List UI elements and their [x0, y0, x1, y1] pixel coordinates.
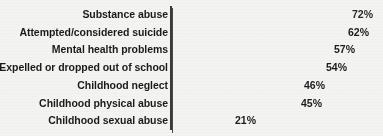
- plot-area: Substance abuse 72% Attempted/considered…: [0, 6, 383, 130]
- bar-row: Attempted/considered suicide 62%: [0, 24, 383, 42]
- value-label: 62%: [348, 24, 369, 42]
- bar-row: Childhood neglect 46%: [0, 77, 383, 95]
- category-label: Attempted/considered suicide: [19, 24, 168, 42]
- category-label: Substance abuse: [82, 6, 168, 24]
- value-label: 21%: [235, 112, 256, 130]
- category-label: Childhood physical abuse: [39, 95, 168, 113]
- bar-fill: [172, 114, 173, 133]
- bar-chart: Substance abuse 72% Attempted/considered…: [0, 0, 383, 136]
- value-label: 46%: [304, 77, 325, 95]
- bar-expelled-or-dropped-out-of-school: [172, 62, 321, 75]
- value-label: 45%: [301, 95, 322, 113]
- value-label: 72%: [352, 6, 373, 24]
- bar-childhood-neglect: [172, 79, 299, 92]
- category-label: Mental health problems: [52, 41, 168, 59]
- category-label: Expelled or dropped out of school: [0, 59, 168, 77]
- bar-row: Substance abuse 72%: [0, 6, 383, 24]
- bar-substance-abuse: [172, 9, 371, 22]
- bar-row: Expelled or dropped out of school 54%: [0, 59, 383, 77]
- category-label: Childhood neglect: [77, 77, 168, 95]
- value-label: 54%: [326, 59, 347, 77]
- category-label: Childhood sexual abuse: [48, 112, 168, 130]
- bar-row: Mental health problems 57%: [0, 41, 383, 59]
- bar-childhood-physical-abuse: [172, 97, 296, 110]
- value-label: 57%: [334, 41, 355, 59]
- bar-childhood-sexual-abuse: [172, 115, 230, 128]
- bar-row: Childhood physical abuse 45%: [0, 95, 383, 113]
- bar-row: Childhood sexual abuse 21%: [0, 112, 383, 130]
- bar-mental-health-problems: [172, 44, 329, 57]
- bar-attempted-considered-suicide: [172, 26, 343, 39]
- category-axis-line: [170, 6, 172, 130]
